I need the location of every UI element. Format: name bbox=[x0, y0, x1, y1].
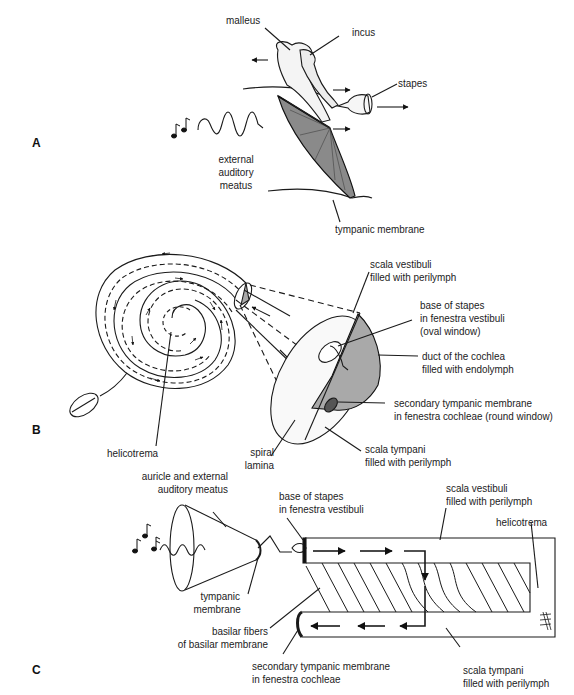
cochlea-spiral bbox=[96, 254, 248, 388]
label-helicotrema-b: helicotrema bbox=[107, 447, 158, 460]
panel-a-drawing bbox=[198, 28, 408, 222]
label-auricle: auricle and external auditory meatus bbox=[118, 470, 228, 496]
label-stapes: stapes bbox=[398, 77, 427, 90]
music-notes-a bbox=[172, 118, 191, 138]
label-scala-vestibuli-c: scala vestibuli filled with perilymph bbox=[446, 482, 532, 508]
cochlea-unrolled-outer bbox=[302, 538, 555, 637]
label-external-auditory-meatus: external auditory meatus bbox=[212, 153, 260, 192]
label-helicotrema-c: helicotrema bbox=[496, 516, 547, 529]
ear-diagram-artwork bbox=[0, 0, 574, 695]
panel-label-c: C bbox=[32, 663, 41, 677]
label-secondary-tympanic-membrane-b: secondary tympanic membrane in fenestra … bbox=[394, 397, 553, 423]
label-tympanic-membrane-a: tympanic membrane bbox=[335, 223, 425, 236]
label-scala-tympani-c: scala tympani filled with perilymph bbox=[463, 664, 549, 690]
panel-b-drawing bbox=[66, 253, 418, 461]
music-notes-c bbox=[133, 524, 161, 553]
label-duct-of-cochlea: duct of the cochlea filled with endolymp… bbox=[422, 350, 514, 376]
label-secondary-tympanic-membrane-c: secondary tympanic membrane in fenestra … bbox=[252, 660, 390, 686]
label-malleus: malleus bbox=[226, 14, 260, 27]
label-base-of-stapes-c: base of stapes in fenestra vestibuli bbox=[279, 490, 364, 516]
panel-label-b: B bbox=[32, 423, 41, 437]
label-scala-vestibuli-b: scala vestibuli filled with perilymph bbox=[370, 258, 456, 284]
label-base-of-stapes-b: base of stapes in fenestra vestibuli (ov… bbox=[420, 299, 505, 338]
label-incus: incus bbox=[352, 26, 375, 39]
label-basilar-fibers: basilar fibers of basilar membrane bbox=[175, 625, 268, 651]
panel-label-a: A bbox=[32, 136, 41, 150]
label-scala-tympani-b: scala tympani filled with perilymph bbox=[365, 443, 451, 469]
label-spiral-lamina: spiral lamina bbox=[241, 446, 274, 472]
label-tympanic-membrane-c: tympanic membrane bbox=[194, 590, 240, 616]
